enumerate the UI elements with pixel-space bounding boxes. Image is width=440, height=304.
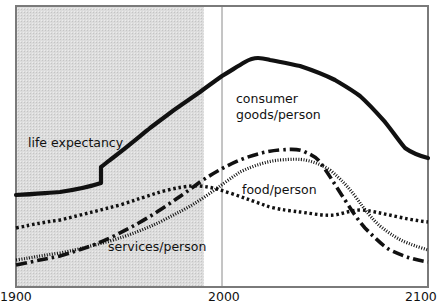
label-services-per-person: services/person xyxy=(108,239,206,254)
line-chart: life expectancy consumer goods/person fo… xyxy=(0,0,440,304)
label-consumer-line1: consumer xyxy=(236,91,299,106)
x-tick-2100: 2100 xyxy=(405,289,437,304)
x-tick-1900: 1900 xyxy=(0,289,32,304)
label-food-per-person: food/person xyxy=(242,182,317,197)
x-tick-2000: 2000 xyxy=(208,289,240,304)
label-consumer-line2: goods/person xyxy=(236,107,321,122)
label-life-expectancy: life expectancy xyxy=(28,135,124,150)
